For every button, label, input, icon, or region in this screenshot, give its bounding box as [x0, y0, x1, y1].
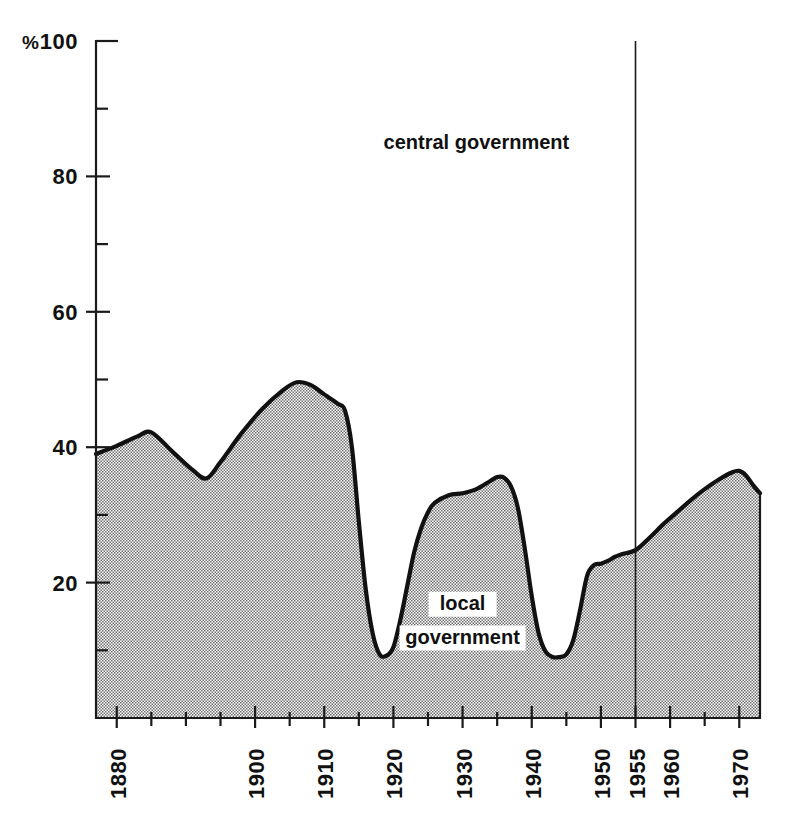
y-axis-tick-labels: 20406080100 — [40, 29, 78, 596]
annotation-label: government — [405, 626, 520, 648]
x-tick-label: 1930 — [452, 748, 477, 799]
y-axis-unit-label: % — [22, 32, 39, 53]
y-tick-label: 40 — [53, 435, 78, 460]
plot-area — [96, 382, 760, 718]
y-tick-label: 60 — [53, 300, 78, 325]
x-tick-label: 1880 — [106, 748, 131, 799]
x-tick-label: 1940 — [521, 748, 546, 799]
y-tick-label: 100 — [40, 29, 78, 54]
y-tick-label: 20 — [53, 571, 78, 596]
x-tick-label: 1900 — [244, 748, 269, 799]
x-tick-label: 1920 — [382, 748, 407, 799]
annotation-label: local — [440, 592, 486, 614]
x-tick-label: 1970 — [728, 748, 753, 799]
area-chart: 20406080100 1880190019101920193019401950… — [0, 0, 794, 813]
x-tick-label: 1960 — [659, 748, 684, 799]
y-tick-label: 80 — [53, 164, 78, 189]
chart-container: 20406080100 1880190019101920193019401950… — [0, 0, 794, 813]
x-tick-label: 1910 — [313, 748, 338, 799]
annotation-label: central government — [384, 131, 570, 153]
x-tick-label: 1950 — [590, 748, 615, 799]
x-axis-tick-labels: 1880190019101920193019401950195519601970 — [106, 748, 754, 799]
x-tick-label: 1955 — [625, 748, 650, 799]
